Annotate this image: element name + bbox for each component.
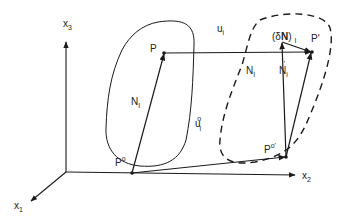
vector-N-prime bbox=[286, 53, 311, 157]
point-P bbox=[162, 51, 166, 55]
x3-axis-label: x3 bbox=[63, 18, 72, 31]
vector-N-reference bbox=[132, 54, 164, 173]
label-N-prime: Ni' bbox=[279, 60, 288, 78]
label-N-translated: NI bbox=[246, 65, 255, 78]
vector-u0 bbox=[132, 157, 285, 173]
deformation-diagram: x3 x2 x1 P Po P' Po' NI NI Ni' ui bbox=[0, 0, 337, 224]
x1-axis-label: x1 bbox=[14, 200, 23, 213]
vector-delta-N bbox=[282, 42, 311, 52]
vector-u bbox=[164, 52, 311, 53]
x2-axis-label: x2 bbox=[302, 170, 311, 183]
label-N-reference: NI bbox=[131, 96, 140, 109]
point-P0-prime bbox=[284, 155, 288, 159]
points bbox=[130, 50, 314, 175]
x1-axis bbox=[31, 172, 66, 201]
label-P0-prime: Po' bbox=[264, 142, 276, 155]
label-P0: Po bbox=[115, 155, 126, 168]
label-delta-N: (δN)I bbox=[272, 31, 296, 44]
coordinate-axes: x3 x2 x1 bbox=[14, 18, 311, 213]
label-P-prime: P' bbox=[311, 33, 320, 44]
x2-axis bbox=[66, 172, 295, 175]
label-u0: uio bbox=[195, 115, 202, 132]
point-P-prime bbox=[310, 50, 314, 54]
label-P: P bbox=[150, 43, 157, 54]
point-P0 bbox=[130, 171, 134, 175]
label-u: ui bbox=[217, 23, 225, 36]
